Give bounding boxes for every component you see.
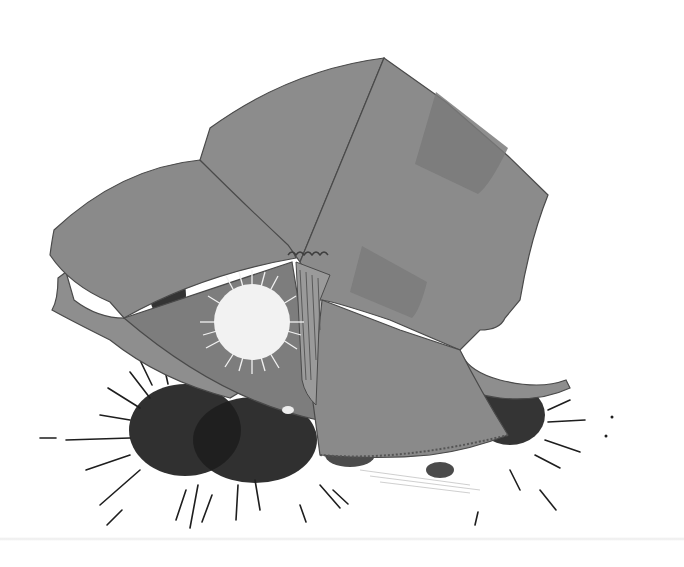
artwork-illustration xyxy=(0,0,684,567)
white-dot xyxy=(282,406,294,414)
hatch-shadow xyxy=(360,470,480,493)
